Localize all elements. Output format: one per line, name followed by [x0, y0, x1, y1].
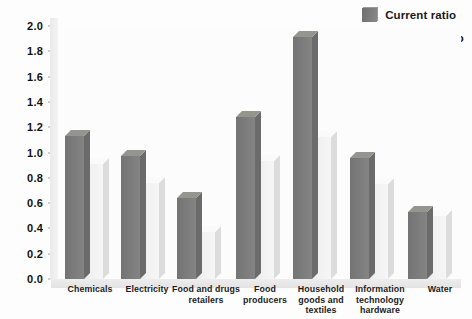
bar-side	[331, 131, 337, 279]
bar-side	[255, 111, 261, 279]
bar-food-producers-current-ratio[interactable]	[236, 117, 255, 279]
bar-group-food-producers	[234, 26, 288, 279]
bar-face	[350, 158, 369, 279]
bar-side	[103, 158, 109, 279]
bar-side	[140, 150, 146, 279]
bar-side	[159, 177, 165, 279]
y-tick-label-0-2: 0.2	[27, 248, 43, 260]
y-tick-label-1-2: 1.2	[27, 121, 43, 133]
bar-groups	[57, 26, 461, 279]
bar-household-goods-and-textiles-current-ratio[interactable]	[293, 37, 312, 279]
y-tick-label-1-8: 1.8	[27, 45, 43, 57]
bar-face	[121, 156, 140, 279]
y-tick-label-0-4: 0.4	[27, 222, 43, 234]
bar-information-technology-hardware-current-ratio[interactable]	[350, 158, 369, 279]
y-tick-label-0-0: 0.0	[27, 273, 43, 285]
bar-group-water	[406, 26, 460, 279]
bar-group-household-goods-and-textiles	[291, 26, 345, 279]
x-axis: Chemicals Electricity Food and drugsreta…	[57, 284, 467, 319]
bar-chart: Current ratio Acid-test ratio 2.0 1.8 1.…	[0, 0, 472, 319]
bar-side	[274, 155, 280, 279]
x-tick-label-water: Water	[405, 284, 472, 295]
x-tick-label-line: technology	[344, 295, 416, 306]
legend-item-current-ratio: Current ratio	[362, 8, 464, 22]
bar-side	[446, 210, 452, 279]
bar-water-current-ratio[interactable]	[408, 212, 427, 279]
bar-electricity-current-ratio[interactable]	[121, 156, 140, 279]
y-tick-label-1-6: 1.6	[27, 71, 43, 83]
bar-group-chemicals	[63, 26, 117, 279]
y-axis: 2.0 1.8 1.6 1.4 1.2 1.0 0.8 0.6 0.4 0.2 …	[0, 0, 57, 319]
bar-side	[369, 152, 375, 279]
bar-side	[215, 226, 221, 279]
bar-side	[84, 130, 90, 279]
bar-face	[236, 117, 255, 279]
bar-group-electricity	[119, 26, 173, 279]
bar-food-and-drugs-retailers-current-ratio[interactable]	[177, 198, 196, 279]
legend-swatch-current-ratio	[362, 8, 377, 22]
y-tick-label-2-0: 2.0	[27, 20, 43, 32]
bar-side	[196, 192, 202, 279]
bar-group-information-technology-hardware	[348, 26, 402, 279]
bar-face	[177, 198, 196, 279]
bar-chemicals-current-ratio[interactable]	[65, 136, 84, 279]
bar-face	[65, 136, 84, 279]
bar-face	[408, 212, 427, 279]
legend-label-current-ratio: Current ratio	[385, 9, 456, 21]
plot-area	[57, 26, 461, 279]
y-tick-label-0-8: 0.8	[27, 172, 43, 184]
x-tick-label-line: hardware	[344, 305, 416, 316]
bar-group-food-and-drugs-retailers	[175, 26, 229, 279]
bar-side	[427, 206, 433, 279]
y-tick-label-0-6: 0.6	[27, 197, 43, 209]
y-tick-label-1-4: 1.4	[27, 96, 43, 108]
y-tick-label-1-0: 1.0	[27, 147, 43, 159]
bar-side	[312, 31, 318, 279]
bar-side	[388, 178, 394, 279]
bar-face	[293, 37, 312, 279]
x-tick-label-line: Water	[405, 284, 472, 295]
